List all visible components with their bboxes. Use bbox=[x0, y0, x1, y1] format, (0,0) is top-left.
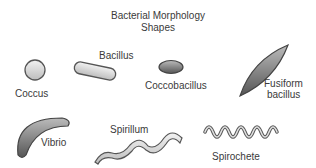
coccus-shape bbox=[25, 60, 45, 80]
label-spirillum: Spirillum bbox=[110, 124, 148, 135]
label-bacillus: Bacillus bbox=[99, 50, 133, 61]
label-fusiform-2: bacillus bbox=[267, 89, 300, 100]
spirochete-shape bbox=[205, 127, 277, 137]
label-coccus: Coccus bbox=[15, 88, 48, 99]
spirillum-shape bbox=[95, 133, 182, 164]
label-fusiform-1: Fusiform bbox=[264, 78, 303, 89]
label-coccobacillus: Coccobacillus bbox=[145, 80, 207, 91]
label-vibrio: Vibrio bbox=[41, 137, 66, 148]
bacillus-shape bbox=[73, 61, 117, 81]
coccobacillus-shape bbox=[159, 61, 183, 74]
label-spirochete: Spirochete bbox=[212, 151, 260, 162]
